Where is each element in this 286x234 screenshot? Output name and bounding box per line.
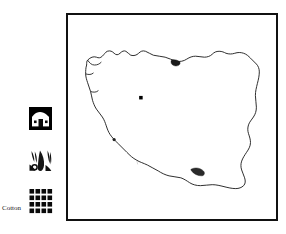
house-icon	[29, 107, 52, 130]
iran-country-outline	[86, 51, 260, 189]
figure-root: Cotton	[0, 0, 286, 234]
map-panel	[66, 13, 278, 221]
grid-squares-icon	[29, 188, 54, 215]
map-legend: Cotton	[0, 100, 64, 225]
legend-item-crop[interactable]	[0, 146, 64, 176]
west-coast-mark	[113, 138, 116, 141]
legend-label-cotton: Cotton	[2, 204, 21, 212]
iran-map-svg	[68, 15, 276, 219]
crop-leaf-icon	[28, 148, 53, 173]
legend-item-cotton[interactable]: Cotton	[0, 188, 64, 218]
legend-item-settlement[interactable]	[0, 105, 64, 135]
capital-city-marker	[139, 96, 143, 100]
